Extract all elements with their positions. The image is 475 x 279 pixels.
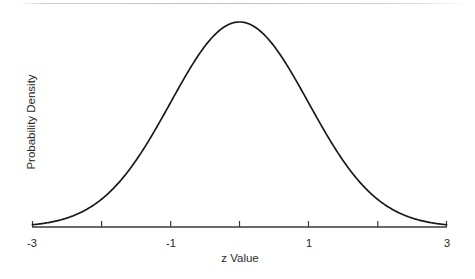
x-axis-group: [32, 221, 447, 227]
x-axis-ticks: [33, 221, 447, 227]
x-axis-title: z Value: [140, 252, 340, 264]
x-tick-label-1: 1: [289, 237, 329, 249]
normal-density-curve: [33, 22, 447, 225]
plot-canvas: [0, 0, 475, 279]
y-axis-title: Probability Density: [25, 74, 37, 169]
x-tick-label-3: 3: [427, 237, 467, 249]
x-tick-label--1: -1: [151, 237, 191, 249]
normal-distribution-figure: -3 -1 1 3 z Value Probability Density: [0, 0, 475, 279]
x-tick-label--3: -3: [12, 237, 52, 249]
